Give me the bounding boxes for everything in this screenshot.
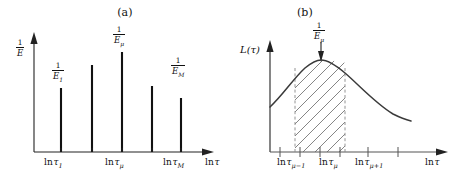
stem-label-1: 1 E1	[52, 62, 64, 83]
ln-text: ln	[319, 157, 328, 167]
panel-b: (b)	[235, 0, 469, 181]
stem-label-2: 1 Eμ	[113, 26, 125, 47]
stem-label-3-numerator: 1	[171, 57, 185, 65]
tick-subscript: μ	[334, 162, 338, 170]
panel-b-x-axis-label: ln τ	[425, 157, 440, 167]
panel-a-tick-label-3: ln τM	[163, 157, 184, 170]
ln-text: ln	[205, 157, 214, 167]
ln-text: ln	[355, 157, 364, 167]
tick-subscript: μ	[120, 162, 124, 170]
panel-b-graphics	[235, 0, 469, 181]
tau-symbol: τ	[215, 157, 220, 167]
y-axis-label-text: L(τ)	[240, 44, 260, 55]
stem-label-1-numerator: 1	[52, 62, 64, 70]
peak-label-denominator: Eμ	[313, 32, 325, 43]
tick-subscript: 1	[59, 162, 63, 170]
panel-b-tick-label-3: ln τμ+1	[355, 157, 383, 170]
panel-a-stems	[61, 52, 181, 152]
peak-label-numerator: 1	[313, 22, 325, 30]
ln-text: ln	[277, 157, 286, 167]
band-boundaries	[295, 66, 345, 152]
panel-b-peak-label: 1 Eμ	[313, 22, 325, 43]
panel-b-y-axis-label: L(τ)	[240, 44, 260, 55]
stem-label-2-subscript: μ	[120, 40, 124, 47]
tick-subscript: μ+1	[370, 162, 384, 170]
stem-label-2-denominator: Eμ	[113, 36, 125, 47]
ln-text: ln	[105, 157, 114, 167]
figure-container: (a)	[0, 0, 469, 181]
ln-text: ln	[425, 157, 434, 167]
y-axis-numerator: 1	[16, 39, 24, 47]
panel-a-x-axis-label: ln τ	[205, 157, 220, 167]
stem-label-3-subscript: M	[178, 71, 184, 78]
tau-symbol: τ	[435, 157, 440, 167]
stem-label-2-numerator: 1	[113, 26, 125, 34]
ln-text: ln	[163, 157, 172, 167]
panel-a-tick-label-2: ln τμ	[105, 157, 124, 170]
peak-label-subscript: μ	[320, 36, 324, 43]
stem-label-3-denominator: EM	[171, 67, 185, 78]
panel-b-tick-label-1: ln τμ−1	[277, 157, 305, 170]
panel-a-tick-label-1: ln τ1	[44, 157, 63, 170]
panel-a-y-axis-label: 1 E	[16, 38, 24, 58]
tick-subscript: M	[178, 162, 185, 170]
stem-label-1-denominator: E1	[52, 72, 64, 83]
panel-b-y-axis	[266, 40, 273, 152]
panel-a: (a)	[0, 0, 235, 181]
ln-text: ln	[44, 157, 53, 167]
panel-a-y-axis	[30, 32, 37, 152]
panel-b-tick-label-2: ln τμ	[319, 157, 338, 170]
y-axis-denominator: E	[16, 49, 24, 58]
panel-b-x-axis	[270, 148, 448, 155]
stem-label-3: 1 EM	[171, 57, 185, 78]
tick-subscript: μ−1	[292, 162, 306, 170]
stem-label-1-subscript: 1	[59, 76, 63, 83]
